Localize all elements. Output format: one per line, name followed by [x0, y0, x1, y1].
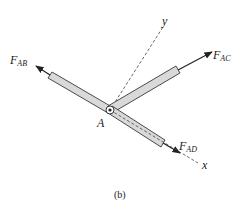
force-arrow-ab	[36, 66, 50, 75]
figure-caption: (b)	[114, 189, 126, 201]
force-label-ac: FAC	[212, 48, 231, 63]
joint-a-inner	[108, 108, 111, 111]
force-arrow-ad	[163, 143, 180, 153]
member-ac	[108, 52, 212, 113]
force-label-ad: FAD	[178, 139, 197, 154]
joint-label: A	[96, 116, 105, 130]
force-label-ab: FAB	[9, 53, 27, 68]
member-ad	[108, 106, 180, 153]
x-axis-line	[110, 110, 198, 163]
member-ab	[36, 66, 112, 113]
force-arrow-ac	[178, 52, 212, 70]
y-axis-label: y	[161, 14, 168, 28]
free-body-diagram: A y x FAB FAC FAD (b)	[0, 0, 243, 205]
x-axis-label: x	[201, 158, 208, 172]
